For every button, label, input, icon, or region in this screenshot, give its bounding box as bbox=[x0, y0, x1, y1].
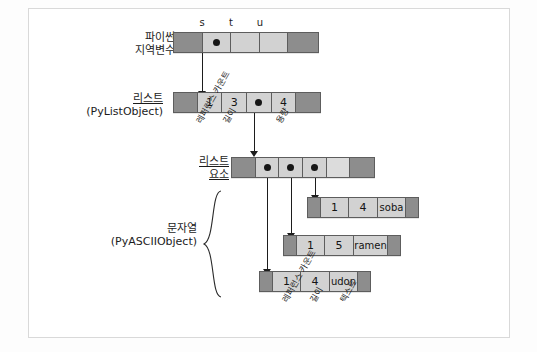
soba-refcount-value: 1 bbox=[331, 202, 338, 213]
list-items-caption-line1: 리스트 bbox=[39, 155, 229, 168]
list-items-cell-2 bbox=[303, 158, 327, 177]
pointer-dot-s bbox=[213, 39, 220, 46]
pointer-dot-item-0 bbox=[264, 164, 271, 171]
arrow-item0-to-udon-line bbox=[267, 178, 268, 271]
list-items-cell-tail bbox=[350, 158, 374, 177]
list-items-cell-3-empty bbox=[327, 158, 351, 177]
ramen-length-value: 5 bbox=[336, 240, 343, 251]
var-label-s: s bbox=[192, 17, 212, 28]
arrow-s-to-list-line bbox=[202, 53, 203, 93]
udon-cell-tail bbox=[358, 272, 370, 291]
list-object-caption: 리스트 (PyListObject) bbox=[23, 92, 163, 118]
udon-cell-header bbox=[260, 272, 273, 291]
pointer-dot-items bbox=[255, 99, 262, 106]
list-items-caption: 리스트 요소 bbox=[39, 155, 229, 181]
ramen-cell-header bbox=[284, 236, 297, 255]
list-items-cell-0 bbox=[256, 158, 280, 177]
strings-group-brace bbox=[201, 189, 225, 299]
list-object-cell-tail bbox=[296, 93, 320, 112]
list-items-cell-header bbox=[232, 158, 256, 177]
locals-caption-line1: 파이썬 bbox=[23, 31, 175, 44]
list-object-length-value: 3 bbox=[231, 97, 238, 108]
list-object-caption-line2: (PyListObject) bbox=[23, 105, 163, 118]
locals-cell-u bbox=[260, 33, 289, 52]
arrow-item2-stub bbox=[315, 178, 316, 190]
locals-cell-s bbox=[203, 33, 232, 52]
list-items-cell-1 bbox=[279, 158, 303, 177]
arrow-item1-to-ramen-line bbox=[291, 178, 292, 235]
arrow-list-to-items-line bbox=[254, 113, 255, 153]
list-items-caption-line2: 요소 bbox=[39, 168, 229, 181]
soba-cell-refcount: 1 bbox=[321, 198, 349, 217]
strings-group-caption-line1: 문자열 bbox=[47, 222, 197, 235]
locals-caption-line2: 지역변수 bbox=[23, 44, 175, 57]
list-items-bar bbox=[231, 157, 375, 178]
string-object-ramen: 1 5 ramen bbox=[283, 235, 401, 256]
figure-frame: 파이썬 지역변수 s t u 리스트 (PyListObject) 1 bbox=[28, 8, 510, 338]
locals-cell-t bbox=[231, 33, 260, 52]
list-object-cell-header bbox=[174, 93, 198, 112]
ramen-cell-length: 5 bbox=[325, 236, 354, 255]
soba-cell-header bbox=[308, 198, 321, 217]
ramen-cell-tail bbox=[388, 236, 400, 255]
locals-cell-4 bbox=[288, 33, 318, 52]
ramen-cell-text: ramen bbox=[354, 236, 388, 255]
ramen-text-value: ramen bbox=[354, 241, 386, 251]
list-object-caption-line1: 리스트 bbox=[23, 92, 163, 105]
soba-cell-tail bbox=[406, 198, 418, 217]
soba-cell-text: soba bbox=[378, 198, 406, 217]
locals-cell-0 bbox=[174, 33, 203, 52]
strings-group-caption-line2: (PyASCIIObject) bbox=[47, 235, 197, 248]
var-label-t: t bbox=[221, 17, 241, 28]
var-label-u: u bbox=[250, 17, 270, 28]
list-object-cell-items-pointer bbox=[247, 93, 272, 112]
list-object-bar: 1 3 4 bbox=[173, 92, 321, 113]
locals-bar bbox=[173, 32, 319, 53]
locals-caption: 파이썬 지역변수 bbox=[23, 31, 175, 57]
string-object-soba: 1 4 soba bbox=[307, 197, 419, 218]
pointer-dot-item-1 bbox=[287, 164, 294, 171]
strings-group-caption: 문자열 (PyASCIIObject) bbox=[47, 222, 197, 248]
soba-cell-length: 4 bbox=[349, 198, 377, 217]
pointer-dot-item-2 bbox=[311, 164, 318, 171]
diagram-canvas: 파이썬 지역변수 s t u 리스트 (PyListObject) 1 bbox=[0, 0, 537, 352]
soba-text-value: soba bbox=[380, 203, 404, 213]
soba-length-value: 4 bbox=[360, 202, 367, 213]
